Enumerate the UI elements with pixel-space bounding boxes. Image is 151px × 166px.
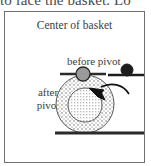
pivot-diagram xyxy=(5,12,145,163)
before-pivot-foot-circle xyxy=(121,64,133,76)
figure-page: to face the basket. Lo Center of basket … xyxy=(0,0,151,166)
cutoff-body-text: to face the basket. Lo xyxy=(0,0,151,9)
figure-frame: Center of basket before pivot after pivo… xyxy=(4,11,145,163)
pivot-foot-circle xyxy=(76,67,90,81)
